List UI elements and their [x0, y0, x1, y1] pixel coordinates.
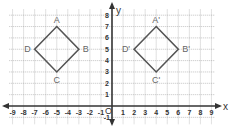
- x-tick-label: -2: [87, 109, 93, 116]
- axes: x y O: [2, 2, 228, 126]
- x-tick-label: 8: [198, 109, 202, 116]
- x-tick-label: 6: [176, 109, 180, 116]
- x-tick-label: -7: [32, 109, 38, 116]
- x-tick-label: -4: [65, 109, 71, 116]
- coordinate-plane: x y O -9-8-7-6-5-4-3-2-1123456789-112345…: [0, 0, 229, 126]
- y-tick-label: 8: [105, 12, 109, 19]
- vertex-label: B': [182, 44, 190, 54]
- y-tick-label: 5: [105, 46, 109, 53]
- y-tick-label: 2: [105, 80, 109, 87]
- y-tick-label: 4: [105, 57, 109, 64]
- y-tick-label: -1: [104, 114, 110, 121]
- x-tick-label: 5: [165, 109, 169, 116]
- x-tick-label: 9: [209, 109, 213, 116]
- x-axis-arrow-left-icon: [2, 103, 9, 109]
- x-tick-label: -6: [43, 109, 49, 116]
- vertex-label: D: [24, 44, 31, 54]
- x-tick-label: 2: [132, 109, 136, 116]
- x-tick-label: -3: [76, 109, 82, 116]
- x-axis-arrow-right-icon: [215, 103, 222, 109]
- vertex-label: A: [54, 15, 60, 25]
- x-tick-label: 4: [154, 109, 158, 116]
- vertex-label: C: [54, 75, 61, 85]
- y-tick-label: 1: [105, 91, 109, 98]
- y-tick-label: 3: [105, 68, 109, 75]
- vertex-label: A': [152, 15, 160, 25]
- y-tick-label: 7: [105, 23, 109, 30]
- x-tick-label: -5: [54, 109, 60, 116]
- vertex-label: C': [152, 75, 160, 85]
- x-axis-label: x: [223, 101, 228, 112]
- x-tick-label: -8: [20, 109, 26, 116]
- y-tick-label: 6: [105, 34, 109, 41]
- x-tick-label: 7: [187, 109, 191, 116]
- x-tick-label: 3: [143, 109, 147, 116]
- y-axis-label: y: [116, 5, 121, 16]
- x-tick-label: 1: [121, 109, 125, 116]
- vertex-label: D': [122, 44, 130, 54]
- vertex-label: B: [83, 44, 89, 54]
- x-tick-label: -9: [9, 109, 15, 116]
- y-axis-arrow-up-icon: [109, 2, 115, 9]
